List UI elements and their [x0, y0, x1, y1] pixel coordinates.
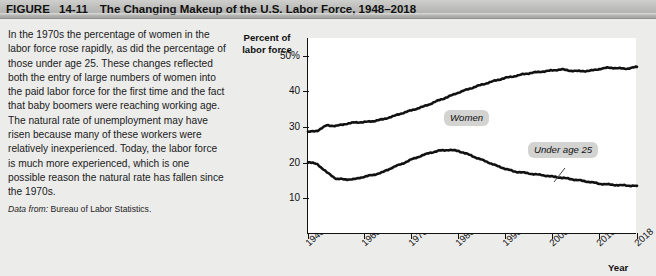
x-tick-mark — [505, 233, 506, 239]
y-tick-label-50: 50% — [266, 50, 300, 61]
caption-source: Data from: Bureau of Labor Statistics. — [8, 204, 226, 215]
x-tick-mark — [411, 233, 412, 239]
series-callout-under-age-25: Under age 25 — [528, 142, 598, 158]
y-tick-mark — [303, 56, 309, 57]
x-tick-mark — [552, 233, 553, 239]
y-tick-label-40: 40 — [266, 85, 300, 96]
figure-header-bar: FIGURE 14-11 The Changing Makeup of the … — [0, 0, 656, 19]
y-tick-mark — [303, 91, 309, 92]
series-lines — [308, 38, 637, 234]
figure-label: FIGURE — [6, 3, 50, 15]
x-tick-mark — [599, 233, 600, 239]
x-tick-mark — [308, 233, 309, 239]
source-prefix: Data from: — [8, 204, 48, 214]
figure-title: The Changing Makeup of the U.S. Labor Fo… — [100, 3, 416, 15]
y-tick-mark — [303, 198, 309, 199]
source-text: Bureau of Labor Statistics. — [51, 204, 152, 214]
y-tick-mark — [303, 127, 309, 128]
x-axis-title: Year — [608, 262, 628, 273]
series-callout-women: Women — [444, 110, 489, 126]
plot-area — [307, 38, 636, 234]
figure-caption: In the 1970s the percentage of women in … — [8, 28, 226, 215]
y-tick-label-20: 20 — [266, 157, 300, 168]
y-tick-label-30: 30 — [266, 121, 300, 132]
x-tick-mark — [637, 233, 638, 239]
figure-number: 14-11 — [59, 3, 88, 15]
x-tick-mark — [458, 233, 459, 239]
y-axis-title-line1: Percent of — [244, 32, 291, 43]
y-tick-label-10: 10 — [266, 192, 300, 203]
figure-container: FIGURE 14-11 The Changing Makeup of the … — [0, 0, 656, 276]
y-tick-mark — [303, 163, 309, 164]
chart: Percent of labor force 1020304050% 19481… — [232, 26, 652, 272]
caption-body: In the 1970s the percentage of women in … — [8, 28, 226, 200]
x-tick-mark — [364, 233, 365, 239]
